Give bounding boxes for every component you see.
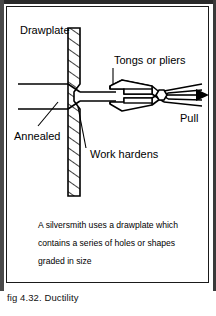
- label-work-hardens: Work hardens: [90, 148, 159, 160]
- drawplate-shape: [66, 26, 84, 198]
- page-edge-top: [0, 0, 216, 4]
- caption-line-2: contains a series of holes or shapes: [38, 238, 175, 248]
- ductility-diagram: Drawplate Annealed Work hardens Tongs or…: [6, 6, 209, 283]
- figure-number-title: fig 4.32. Ductility: [7, 292, 207, 303]
- label-pull: Pull: [180, 112, 198, 124]
- annealed-wire: [18, 84, 68, 109]
- pivot-icon: [156, 90, 167, 100]
- label-drawplate: Drawplate: [20, 24, 70, 36]
- caption-line-1: A silversmith uses a drawplate which: [38, 220, 178, 230]
- page-edge-right: [213, 0, 216, 291]
- caption-line-3: graded in size: [38, 256, 92, 266]
- label-tongs-or-pliers: Tongs or pliers: [114, 54, 186, 66]
- label-annealed: Annealed: [14, 130, 61, 142]
- figure-page: Drawplate Annealed Work hardens Tongs or…: [0, 0, 216, 316]
- page-edge-left: [0, 0, 4, 291]
